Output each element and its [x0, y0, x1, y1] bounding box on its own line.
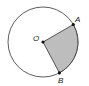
center-point-o — [41, 40, 44, 43]
point-b — [58, 71, 61, 74]
shaded-sector — [43, 25, 78, 73]
label-o: O — [33, 34, 39, 43]
label-b: B — [58, 76, 64, 85]
circle-sector-diagram: O A B — [0, 0, 89, 86]
label-a: A — [74, 15, 80, 24]
